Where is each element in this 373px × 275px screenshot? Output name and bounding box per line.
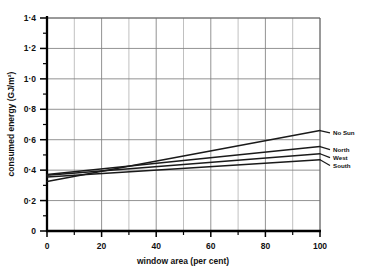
series-label-west: West — [333, 154, 348, 161]
y-tick-label-1.4: 1·4 — [24, 13, 37, 23]
x-tick-label-80: 80 — [261, 241, 271, 251]
x-tick-label-0: 0 — [45, 241, 50, 251]
y-tick-label-0.4: 0·4 — [24, 165, 37, 175]
chart-figure: 00·20·40·60·81·01·21·4 020406080100 No S… — [0, 0, 373, 275]
x-tick-label-100: 100 — [313, 241, 327, 251]
line-chart: 00·20·40·60·81·01·21·4 020406080100 No S… — [0, 0, 373, 275]
x-axis-title: window area (per cent) — [136, 256, 229, 266]
y-tick-label-0: 0 — [31, 226, 36, 236]
series-label-south: South — [333, 162, 351, 169]
series-label-north: North — [333, 146, 350, 153]
y-tick-label-0.2: 0·2 — [24, 196, 37, 206]
y-tick-label-1.2: 1·2 — [24, 43, 37, 53]
y-tick-label-1: 1·0 — [24, 74, 37, 84]
x-tick-label-60: 60 — [206, 241, 216, 251]
y-tick-label-0.6: 0·6 — [24, 135, 37, 145]
series-label-no-sun: No Sun — [333, 129, 355, 136]
y-tick-label-0.8: 0·8 — [24, 104, 37, 114]
x-tick-label-20: 20 — [97, 241, 107, 251]
chart-background — [0, 0, 373, 275]
y-axis-title: consumed energy (GJ/m²) — [6, 71, 16, 176]
x-tick-label-40: 40 — [151, 241, 161, 251]
